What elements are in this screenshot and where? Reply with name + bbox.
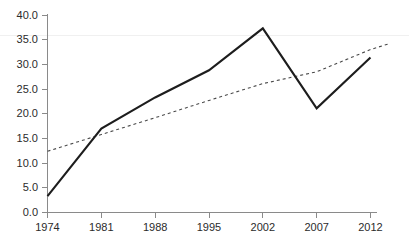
- y-tick-label-5: 5.0: [23, 181, 38, 193]
- y-tick-label-30: 30.0: [17, 58, 38, 70]
- data-line-series: [48, 28, 371, 196]
- y-tick-label-25: 25.0: [17, 83, 38, 95]
- chart-canvas: 0.0 5.0 10.0 15.0 20.0 25.0 30.0 35.0 40…: [0, 0, 409, 244]
- x-tick-label-1988: 1988: [143, 221, 167, 233]
- y-tick-label-20: 20.0: [17, 107, 38, 119]
- y-tick-label-10: 10.0: [17, 157, 38, 169]
- x-tick-label-1981: 1981: [89, 221, 113, 233]
- y-tick-label-35: 35.0: [17, 33, 38, 45]
- trend-line-series: [48, 44, 390, 152]
- x-axis-group: 1974 1981 1988 1995 2002 2007 2012: [35, 213, 382, 234]
- y-tick-label-40: 40.0: [17, 9, 38, 21]
- y-tick-label-15: 15.0: [17, 132, 38, 144]
- y-tick-label-0: 0.0: [23, 206, 38, 218]
- line-chart: 0.0 5.0 10.0 15.0 20.0 25.0 30.0 35.0 40…: [0, 0, 409, 244]
- x-tick-label-2007: 2007: [304, 221, 328, 233]
- x-tick-label-1974: 1974: [35, 221, 59, 233]
- x-tick-label-2002: 2002: [251, 221, 275, 233]
- x-tick-label-2012: 2012: [358, 221, 382, 233]
- y-axis-group: 0.0 5.0 10.0 15.0 20.0 25.0 30.0 35.0 40…: [17, 9, 48, 219]
- x-tick-label-1995: 1995: [197, 221, 221, 233]
